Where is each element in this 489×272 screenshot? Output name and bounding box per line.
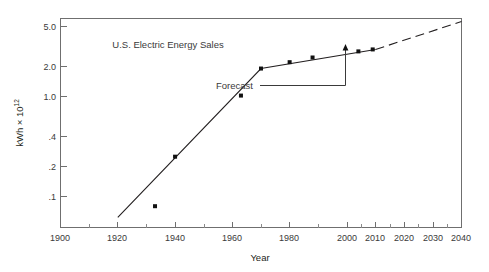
- x-tick-label-7: 2020: [394, 233, 414, 243]
- x-tick-label-3: 1960: [222, 233, 242, 243]
- forecast-annotation: Forecast: [216, 44, 348, 91]
- x-axis-title: Year: [250, 252, 269, 263]
- y-tick-label-1: .2: [48, 162, 56, 172]
- data-point: [356, 49, 360, 53]
- data-point: [259, 67, 263, 71]
- x-tick-label-2: 1940: [165, 233, 185, 243]
- x-tick-label-0: 1900: [50, 233, 70, 243]
- data-point: [311, 56, 315, 60]
- y-axis-title: kWh × 1012: [13, 99, 25, 147]
- y-tick-label-2: .4: [48, 132, 56, 142]
- data-point: [288, 60, 292, 64]
- x-tick-label-8: 2030: [423, 233, 443, 243]
- data-point-group: [153, 47, 375, 208]
- x-tick-label-4: 1980: [279, 233, 299, 243]
- forecast-trend-line: [376, 22, 462, 50]
- y-tick-label-4: 2.0: [43, 62, 56, 72]
- x-axis-minor-ticks: [90, 224, 448, 228]
- y-axis-title-exponent: 12: [13, 99, 20, 107]
- historical-trend-line: [118, 49, 376, 217]
- x-tick-label-6: 2010: [365, 233, 385, 243]
- x-axis-tick-labels: 1900 1920 1940 1960 1980 2000 2010 2020 …: [50, 233, 471, 243]
- forecast-annotation-label: Forecast: [216, 80, 253, 91]
- data-point: [371, 47, 375, 51]
- y-axis-tick-labels: 5.0 2.0 1.0 .4 .2 .1: [43, 22, 56, 202]
- y-tick-label-0: .1: [48, 192, 56, 202]
- svg-text:kWh × 1012: kWh × 1012: [13, 99, 25, 147]
- data-point: [173, 155, 177, 159]
- y-tick-label-5: 5.0: [43, 22, 56, 32]
- data-point: [239, 94, 243, 98]
- x-tick-label-1: 1920: [107, 233, 127, 243]
- x-tick-label-5: 2000: [337, 233, 357, 243]
- y-axis-title-base: kWh × 10: [14, 106, 25, 146]
- chart-figure: 5.0 2.0 1.0 .4 .2 .1 kWh × 1012: [0, 0, 489, 272]
- chart-title: U.S. Electric Energy Sales: [112, 39, 224, 50]
- y-axis-ticks: [61, 27, 67, 197]
- us-electric-energy-sales-chart: 5.0 2.0 1.0 .4 .2 .1 kWh × 1012: [0, 0, 489, 272]
- x-tick-label-9: 2040: [451, 233, 471, 243]
- data-point: [153, 204, 157, 208]
- y-tick-label-3: 1.0: [43, 92, 56, 102]
